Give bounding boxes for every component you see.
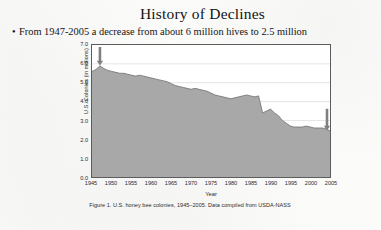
y-tick-label: 3.0 [80, 118, 88, 124]
x-tick-label: 1965 [165, 180, 177, 186]
arrow-start [97, 47, 103, 66]
y-tick-label: 7.0 [80, 41, 88, 47]
y-tick-label: 2.0 [80, 137, 88, 143]
bullet-marker: • [12, 26, 16, 38]
bullet-text: From 1947-2005 a decrease from about 6 m… [12, 26, 312, 38]
x-tick-label: 1945 [85, 180, 97, 186]
x-tick-label: 1995 [285, 180, 297, 186]
x-tick-label: 1985 [245, 180, 257, 186]
figure-container: U.S. Colonies (in millions) 0.01.02.03.0… [58, 44, 348, 222]
area-chart-svg [92, 45, 330, 177]
y-tick-label: 6.0 [80, 60, 88, 66]
x-tick-label: 1950 [105, 180, 117, 186]
x-tick-label: 1955 [125, 180, 137, 186]
bullet-item: • From 1947-2005 a decrease from about 6… [12, 26, 312, 38]
x-axis-ticks: 1945195019551960196519701975198019851990… [91, 180, 331, 190]
x-tick-label: 1990 [265, 180, 277, 186]
x-tick-label: 2000 [305, 180, 317, 186]
x-tick-label: 1970 [185, 180, 197, 186]
arrow-end [324, 109, 330, 131]
y-tick-label: 4.0 [80, 98, 88, 104]
figure-caption: Figure 1. U.S. honey bee colonies, 1945–… [20, 202, 360, 208]
y-axis-ticks: 0.01.02.03.04.05.06.07.0 [66, 44, 88, 178]
slide-canvas: History of Declines • From 1947-2005 a d… [0, 0, 381, 230]
y-tick-label: 5.0 [80, 79, 88, 85]
x-tick-label: 1975 [205, 180, 217, 186]
slide-title: History of Declines [0, 5, 381, 23]
x-axis-label: Year [91, 191, 331, 197]
x-tick-label: 1980 [225, 180, 237, 186]
x-tick-label: 2005 [325, 180, 337, 186]
y-tick-label: 1.0 [80, 156, 88, 162]
chart-plot-area [91, 44, 331, 178]
x-tick-label: 1960 [145, 180, 157, 186]
